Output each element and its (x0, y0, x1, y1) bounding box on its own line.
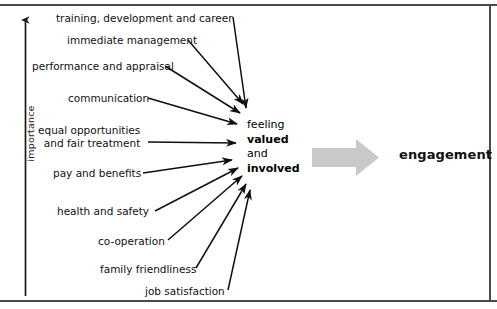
connector-arrow-icon (188, 40, 243, 104)
connector-arrow-icon (155, 168, 238, 211)
connector-arrow-icon (143, 160, 232, 173)
factor-label-line: job satisfaction (145, 285, 225, 298)
factor-label: training, development and career (56, 12, 233, 25)
factor-label: performance and appraisal (32, 60, 174, 73)
connector-arrow-icon (148, 98, 237, 124)
factor-label-line: pay and benefits (53, 167, 141, 180)
connector-arrow-icon (148, 142, 236, 143)
factor-label: immediate management (67, 34, 197, 47)
factor-label-line: communication (68, 92, 149, 105)
right-block-arrow-icon (312, 139, 379, 176)
factor-label: pay and benefits (53, 167, 141, 180)
connector-arrow-icon (165, 66, 240, 113)
axis-label-importance: importance (25, 94, 36, 174)
axis-group: importance (18, 10, 34, 298)
factor-label: family friendliness (100, 263, 196, 276)
factor-label-line: family friendliness (100, 263, 196, 276)
factor-label-line: performance and appraisal (32, 60, 174, 73)
factor-label: co-operation (98, 235, 165, 248)
factor-label-line: health and safety (57, 205, 149, 218)
frame-bottom-border (0, 300, 497, 302)
outcome-line-and: and (247, 147, 300, 162)
factor-label-line: equal opportunities (38, 124, 140, 137)
factor-label: communication (68, 92, 149, 105)
connector-arrow-icon (233, 17, 246, 108)
outcome-text-block: feeling valued and involved (247, 118, 300, 176)
diagram-canvas: importance training, development and car… (0, 0, 497, 309)
factor-label-line: immediate management (67, 34, 197, 47)
factor-label-line: and fair treatment (38, 137, 140, 150)
engagement-label: engagement (399, 147, 492, 162)
outcome-line-valued: valued (247, 133, 300, 148)
frame-top-border (0, 4, 497, 6)
outcome-line-feeling: feeling (247, 118, 300, 133)
factor-label: job satisfaction (145, 285, 225, 298)
factor-label-line: training, development and career (56, 12, 233, 25)
factor-label: equal opportunitiesand fair treatment (38, 124, 140, 149)
outcome-line-involved: involved (247, 162, 300, 177)
connector-arrow-icon (196, 184, 246, 268)
connector-arrow-icon (228, 190, 250, 290)
factor-label-line: co-operation (98, 235, 165, 248)
factor-label: health and safety (57, 205, 149, 218)
connector-arrow-icon (168, 176, 242, 240)
